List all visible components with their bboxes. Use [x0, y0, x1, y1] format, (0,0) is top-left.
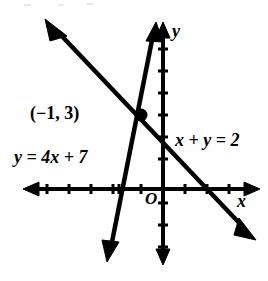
y-axis-arrow-down-icon	[156, 249, 170, 265]
origin-label: O	[145, 190, 157, 207]
line-y-equals-4x-plus-7	[112, 35, 153, 242]
intersection-point-marker	[135, 109, 148, 122]
line-steep-equation-label: y = 4x + 7	[14, 148, 88, 166]
x-axis-label: x	[237, 192, 246, 210]
line-shallow-equation-label: x + y = 2	[175, 131, 240, 149]
y-axis-label: y	[172, 22, 180, 40]
graph-figure: (−1, 3) y = 4x + 7 x + y = 2 O x y	[0, 0, 268, 281]
x-axis-arrow-left-icon	[23, 182, 39, 196]
line-steep-group	[102, 22, 163, 262]
intersection-point-label: (−1, 3)	[30, 104, 79, 122]
line-steep-arrow-bottom-icon	[102, 240, 119, 262]
